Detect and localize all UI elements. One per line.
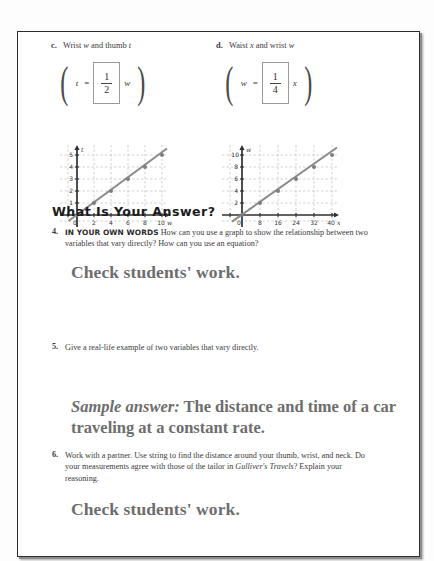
graph-d-ylabel: w bbox=[246, 146, 252, 153]
scanned-page-background: c. Wrist w and thumb t ( t = 1 2 bbox=[0, 0, 434, 561]
exercise-c-letter: c. bbox=[51, 41, 57, 50]
question-5: 5. Give a real-life example of two varia… bbox=[52, 342, 372, 353]
equation-c-left-var: t bbox=[76, 78, 79, 88]
equation-d-left-var: w bbox=[241, 78, 247, 88]
question-6: 6. Work with a partner. Use string to fi… bbox=[52, 450, 374, 484]
graph-c-ytick-2: 2 bbox=[69, 187, 73, 194]
fraction-denominator-c: 2 bbox=[104, 85, 109, 95]
question-6-body: Work with a partner. Use string to find … bbox=[65, 450, 374, 484]
fraction-numerator-c: 1 bbox=[104, 72, 109, 82]
graph-d-ytick-10: 10 bbox=[231, 151, 239, 158]
exercise-c-var-t: t bbox=[129, 41, 131, 50]
answer-box-c[interactable]: 1 2 bbox=[93, 62, 120, 104]
graph-d-svg: 2 4 6 8 10 8 16 24 32 bbox=[216, 139, 341, 231]
graph-c-ylabel: t bbox=[81, 146, 84, 153]
equation-d-equals: = bbox=[253, 78, 258, 88]
exercise-d-text-1: Waist bbox=[229, 41, 250, 50]
exercise-c-equation: ( t = 1 2 w ) bbox=[51, 60, 221, 108]
fraction-denominator-d: 4 bbox=[273, 85, 278, 95]
graph-c-xtick-8: 8 bbox=[143, 219, 147, 226]
exercise-c-text-2: and thumb bbox=[89, 41, 129, 50]
graph-d-origin: 0 bbox=[237, 219, 241, 226]
graph-d-ytick-4: 4 bbox=[234, 187, 238, 194]
exercise-c: c. Wrist w and thumb t ( t = 1 2 bbox=[51, 40, 221, 108]
graph-c-ytick-3: 3 bbox=[69, 175, 73, 182]
graph-d: 2 4 6 8 10 8 16 24 32 bbox=[216, 139, 341, 231]
question-4-caps-lead: IN YOUR OWN WORDS bbox=[65, 228, 159, 237]
graph-d-ytick-8: 8 bbox=[234, 163, 238, 170]
worksheet-page: c. Wrist w and thumb t ( t = 1 2 bbox=[17, 31, 420, 557]
question-4-body: IN YOUR OWN WORDS How can you use a grap… bbox=[65, 227, 372, 250]
graph-c-xtick-2: 2 bbox=[92, 219, 96, 226]
graph-d-xtick-16: 16 bbox=[274, 219, 282, 226]
graph-d-ytick-2: 2 bbox=[234, 199, 238, 206]
answer-box-d[interactable]: 1 4 bbox=[262, 62, 289, 104]
question-4-answer: Check students' work. bbox=[71, 262, 240, 283]
graph-c-xtick-4: 4 bbox=[109, 219, 113, 226]
graph-d-xlabel: x bbox=[337, 219, 341, 226]
question-5-number: 5. bbox=[52, 342, 58, 351]
question-5-answer: Sample answer: The distance and time of … bbox=[71, 396, 401, 438]
question-6-book-title: Gulliver's Travels bbox=[235, 462, 293, 471]
exercise-row: c. Wrist w and thumb t ( t = 1 2 bbox=[18, 40, 419, 195]
graph-d-xtick-24: 24 bbox=[292, 219, 300, 226]
graph-c-xlabel: w bbox=[167, 219, 172, 226]
exercise-d: d. Waist x and wrist w ( w = 1 4 bbox=[216, 40, 391, 108]
graph-c-ytick-4: 4 bbox=[69, 163, 73, 170]
exercise-d-letter: d. bbox=[216, 41, 223, 50]
graph-d-xtick-32: 32 bbox=[310, 219, 318, 226]
graph-c-ytick-5: 5 bbox=[69, 151, 73, 158]
equation-c-equals: = bbox=[84, 78, 89, 88]
exercise-d-var-w: w bbox=[289, 41, 295, 50]
graph-c-xtick-6: 6 bbox=[126, 219, 130, 226]
question-5-text: Give a real-life example of two variable… bbox=[65, 343, 259, 352]
exercise-c-prompt: c. Wrist w and thumb t bbox=[51, 40, 221, 51]
question-6-number: 6. bbox=[52, 450, 58, 459]
graph-c-xtick-10: 10 bbox=[157, 219, 165, 226]
graph-d-xtick-8: 8 bbox=[258, 219, 262, 226]
question-4-number: 4. bbox=[52, 227, 58, 236]
fraction-numerator-d: 1 bbox=[273, 72, 278, 82]
graph-c-origin: 0 bbox=[73, 219, 77, 226]
question-5-body: Give a real-life example of two variable… bbox=[65, 342, 372, 353]
graph-d-xtick-40: 40 bbox=[327, 219, 335, 226]
exercise-c-text-1: Wrist bbox=[63, 41, 83, 50]
equation-d-right-var: x bbox=[293, 78, 297, 88]
graph-d-ytick-6: 6 bbox=[234, 175, 238, 182]
section-heading: What Is Your Answer? bbox=[52, 204, 215, 219]
exercise-d-prompt: d. Waist x and wrist w bbox=[216, 40, 391, 51]
question-6-answer: Check students' work. bbox=[71, 499, 240, 520]
exercise-d-equation: ( w = 1 4 x ) bbox=[216, 60, 391, 108]
sample-answer-lead: Sample answer: bbox=[71, 397, 180, 416]
exercise-d-text-2: and wrist bbox=[254, 41, 289, 50]
equation-c-right-var: w bbox=[124, 78, 130, 88]
question-4: 4. IN YOUR OWN WORDS How can you use a g… bbox=[52, 227, 372, 250]
